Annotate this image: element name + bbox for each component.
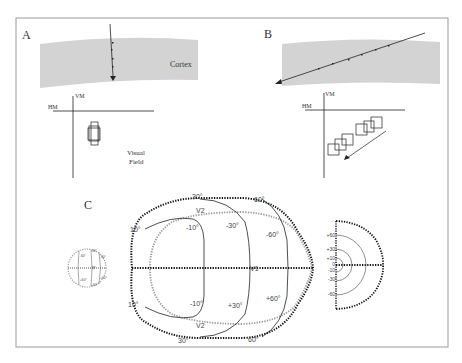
ecc-label-top: 60° <box>254 196 265 203</box>
receptive-field <box>371 117 382 128</box>
panel-a: A Cortex VM HM Visual Field <box>22 24 198 178</box>
inner-label-top: -60° <box>266 231 279 238</box>
recording-site <box>112 66 114 68</box>
electrode-arrowhead-b <box>275 79 282 84</box>
visual-field-label-2: Field <box>129 158 144 166</box>
small-field-label: -30° <box>91 249 98 253</box>
half-field-label: +30 <box>327 246 336 252</box>
half-field-iso-60 <box>336 235 366 295</box>
receptive-field <box>342 134 353 145</box>
small-field-label: -10° <box>100 255 107 259</box>
small-field-label: -60° <box>80 254 87 258</box>
vm-label-a: VM <box>75 93 85 99</box>
v1-label: V1 <box>250 265 259 272</box>
cortex-band-b <box>282 39 440 86</box>
ecc-label-bottom: 60° <box>248 336 259 343</box>
hm-label-a: HM <box>48 104 58 110</box>
small-field-label: +30° <box>91 283 98 287</box>
hm-label-b: HM <box>302 103 312 109</box>
inner-label-top: -30° <box>226 222 239 229</box>
recording-site <box>111 49 113 51</box>
panel-b-label: B <box>264 27 272 41</box>
ecc-label-bottom: 10° <box>128 301 139 308</box>
recording-site <box>361 54 363 56</box>
panel-a-label: A <box>22 28 31 42</box>
visual-field-label-1: Visual <box>127 149 145 157</box>
half-field-label: +60 <box>327 232 336 238</box>
v2-top-label: V2 <box>196 207 205 214</box>
half-visual-field: +60 +30 +10 0 -10 -30 -60 <box>327 221 384 309</box>
recording-site <box>375 49 377 51</box>
inner-label-top: -10° <box>186 224 199 231</box>
panel-b: B VM HM <box>264 27 440 178</box>
small-field-label: M° <box>92 266 97 270</box>
recording-site <box>318 68 320 70</box>
panel-c-label: C <box>84 198 92 212</box>
half-field-label: -10 <box>328 267 335 273</box>
v2-bottom-label: V2 <box>196 322 205 329</box>
receptive-field <box>364 121 374 132</box>
recording-site <box>112 42 114 44</box>
inner-label-bottom: +30° <box>228 302 243 309</box>
small-field-label: +10° <box>100 276 107 280</box>
recording-site <box>112 58 114 60</box>
receptive-field <box>328 144 339 155</box>
rf-arrowhead <box>344 155 350 160</box>
recording-site <box>388 45 390 47</box>
receptive-fields-a <box>88 122 100 145</box>
receptive-field <box>91 122 98 145</box>
recording-site <box>348 59 350 61</box>
half-field-label: -60 <box>328 291 335 297</box>
receptive-field <box>356 124 367 135</box>
inner-label-bottom: -10° <box>190 300 203 307</box>
recording-site <box>332 63 334 65</box>
cortex-label: Cortex <box>170 60 192 69</box>
ecc-label-bottom: 30° <box>178 337 189 344</box>
half-field-labels: +60 +30 +10 0 -10 -30 -60 <box>327 232 336 297</box>
receptive-fields-b <box>328 117 382 155</box>
receptive-field <box>335 139 346 150</box>
vm-label-b: VM <box>325 91 335 97</box>
v1-v2-map: V1 V2 V2 10° 30° 60° 10° 30° 60° -10° -3… <box>128 193 313 344</box>
ecc-label-top: 30° <box>192 193 203 200</box>
inner-label-bottom: +60° <box>266 295 281 302</box>
panel-c: C -60° -30° -10° M° +60° +30° +10° <box>68 193 383 344</box>
small-field-label: +60° <box>80 278 87 282</box>
small-visual-field: -60° -30° -10° M° +60° +30° +10° <box>68 249 107 287</box>
ecc-label-top: 10° <box>130 226 141 233</box>
half-field-label: -30 <box>328 276 335 282</box>
figure: A Cortex VM HM Visual Field B <box>0 0 462 363</box>
